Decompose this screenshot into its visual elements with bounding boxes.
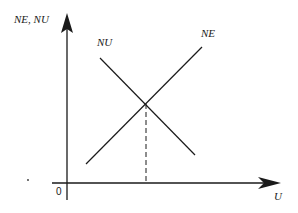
x-axis-label: U: [274, 190, 283, 202]
stray-dot: [27, 179, 29, 181]
x-axis: [52, 177, 281, 189]
ne-curve: [86, 47, 202, 164]
supply-demand-diagram: NE, NU NU NE 0 U: [0, 0, 298, 213]
origin-label: 0: [56, 186, 62, 197]
y-axis-label: NE, NU: [13, 13, 50, 25]
y-axis: [61, 13, 73, 200]
nu-curve-label: NU: [96, 36, 113, 48]
nu-curve: [100, 58, 195, 155]
ne-curve-label: NE: [200, 27, 215, 39]
